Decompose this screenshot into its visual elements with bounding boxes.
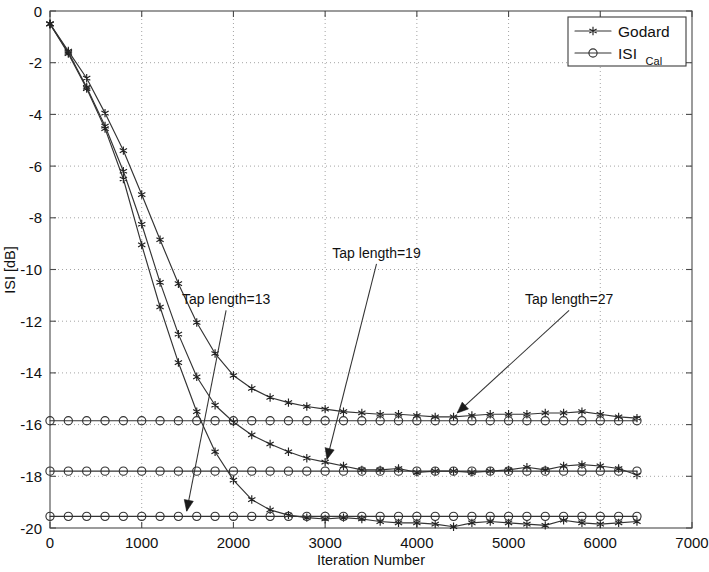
legend-entry-label: Godard	[618, 23, 670, 40]
annotation-label: Tap length=19	[332, 245, 421, 261]
x-tick-label: 7000	[675, 534, 708, 551]
y-axis-title: ISI [dB]	[2, 246, 18, 294]
chart-canvas: 01000200030004000500060007000 0-2-4-6-8-…	[0, 0, 709, 572]
annotation-label: Tap length=27	[525, 291, 614, 307]
y-tick-label: -12	[20, 313, 42, 330]
x-tick-label: 6000	[584, 534, 617, 551]
x-tick-label: 2000	[217, 534, 250, 551]
y-tick-label: 0	[34, 3, 42, 20]
legend-entry-subscript: Cal	[646, 55, 663, 67]
x-tick-label: 4000	[400, 534, 433, 551]
x-tick-label: 0	[46, 534, 54, 551]
x-tick-label: 5000	[492, 534, 525, 551]
y-tick-label: -6	[29, 158, 42, 175]
x-axis-title: Iteration Number	[317, 552, 425, 568]
y-tick-label: -2	[29, 54, 42, 71]
isi-convergence-chart: 01000200030004000500060007000 0-2-4-6-8-…	[0, 0, 709, 572]
x-tick-label: 1000	[125, 534, 158, 551]
y-tick-label: -10	[20, 261, 42, 278]
y-tick-label: -16	[20, 416, 42, 433]
x-tick-label: 3000	[308, 534, 341, 551]
legend-entry-label: ISI	[618, 45, 637, 62]
y-tick-label: -8	[29, 209, 42, 226]
y-tick-label: -18	[20, 468, 42, 485]
legend: GodardISICal	[568, 17, 686, 67]
y-tick-label: -14	[20, 364, 42, 381]
annotation-label: Tap length=13	[182, 291, 271, 307]
chart-background	[0, 0, 709, 572]
y-tick-label: -20	[20, 520, 42, 537]
y-tick-label: -4	[29, 106, 42, 123]
